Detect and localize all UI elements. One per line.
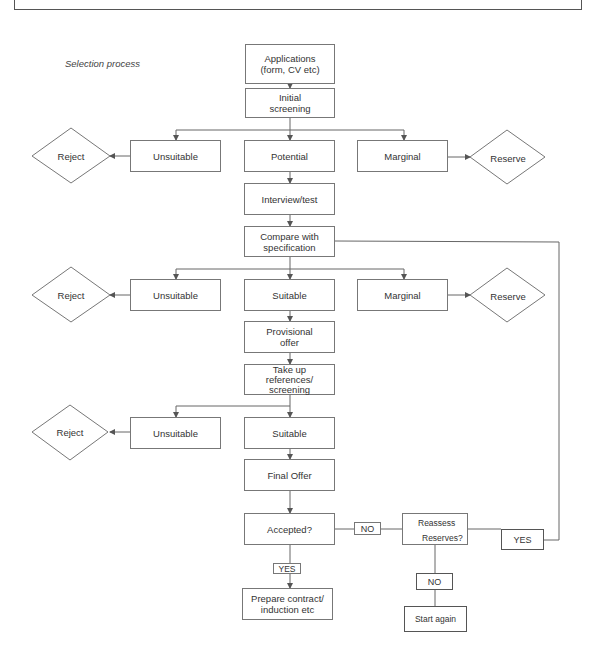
accepted-no-label: NO	[354, 522, 381, 535]
unsuitable-box-2: Unsuitable	[130, 279, 221, 311]
unsuitable-box-3: Unsuitable	[130, 417, 221, 449]
final-offer-box: Final Offer	[244, 459, 335, 491]
reassess-yes-label: YES	[501, 529, 544, 550]
suitable-box-3: Suitable	[244, 417, 335, 449]
reject-label-1: Reject	[58, 151, 85, 162]
marginal-box-2: Marginal	[357, 279, 448, 311]
reject-label-3: Reject	[57, 427, 84, 438]
compare-specification-box: Compare with specification	[244, 226, 335, 257]
reserve-label-2: Reserve	[490, 291, 525, 302]
start-again-box: Start again	[404, 606, 467, 632]
take-up-references-box: Take up references/ screening	[244, 364, 335, 395]
interview-test-box: Interview/test	[244, 183, 335, 215]
reassess-line1: Reassess	[418, 518, 455, 529]
accepted-yes-label: YES	[273, 563, 301, 574]
reserve-label-1: Reserve	[490, 153, 525, 164]
potential-box: Potential	[244, 140, 335, 172]
accepted-box: Accepted?	[244, 513, 335, 545]
initial-screening-box: Initial screening	[245, 88, 335, 118]
suitable-box-2: Suitable	[244, 279, 335, 311]
reassess-no-label: NO	[416, 573, 453, 590]
prepare-contract-box: Prepare contract/ induction etc	[242, 588, 333, 620]
provisional-offer-box: Provisional offer	[244, 321, 335, 353]
applications-box: Applications (form, CV etc)	[245, 44, 335, 84]
marginal-box-1: Marginal	[357, 140, 448, 172]
reassess-line2: Reserves?	[422, 533, 463, 544]
reject-label-2: Reject	[58, 290, 85, 301]
reassess-reserves-box: Reassess Reserves?	[402, 513, 468, 545]
unsuitable-box-1: Unsuitable	[130, 140, 221, 172]
